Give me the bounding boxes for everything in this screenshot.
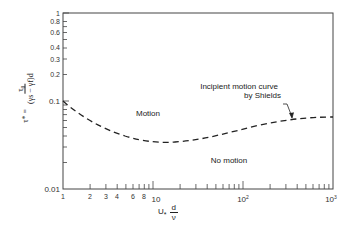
- plot-frame: [63, 13, 333, 189]
- x-tick-8: 8: [142, 193, 146, 200]
- x-tick-6: 6: [131, 193, 135, 200]
- y-axis-label-denominator: (γs − γf)d: [26, 71, 35, 106]
- x-tick-1: 1: [61, 193, 65, 200]
- x-axis-label-main: U*: [158, 207, 167, 218]
- curve-label-line2: by Shields: [244, 91, 281, 100]
- x-axis-label-fraction: d ν: [170, 203, 178, 222]
- y-axis-ticks: [63, 13, 69, 163]
- y-tick-0.6: 0.6: [50, 29, 60, 36]
- x-tick-3: 3: [104, 193, 108, 200]
- x-tick-2: 2: [88, 193, 92, 200]
- y-axis-label: τ* = τ₀ (γs − γf)d: [10, 62, 40, 132]
- x-axis-label-numerator: d: [170, 203, 178, 213]
- y-tick-0.01: 0.01: [44, 185, 60, 194]
- x-tick-100: 102: [237, 194, 249, 204]
- y-tick-0.3: 0.3: [50, 56, 60, 63]
- x-axis-label: U* d ν: [158, 203, 178, 222]
- curve-callout-arrow: [283, 104, 294, 118]
- x-tick-4: 4: [115, 193, 119, 200]
- y-axis-label-numerator: τ₀: [16, 84, 26, 94]
- y-tick-0.4: 0.4: [50, 44, 60, 51]
- y-tick-0.2: 0.2: [50, 71, 60, 78]
- y-axis-label-prefix: τ* =: [21, 109, 30, 123]
- x-axis-ticks: [90, 181, 329, 189]
- y-tick-0.1: 0.1: [49, 97, 61, 106]
- shields-curve: [63, 101, 333, 142]
- motion-label: Motion: [136, 109, 160, 118]
- x-tick-1000: 103: [325, 194, 337, 204]
- y-tick-labels: 1 0.8 0.6 0.4 0.3 0.2 0.1 0.01: [44, 10, 60, 194]
- no-motion-label: No motion: [211, 156, 247, 165]
- x-tick-labels: 1 2 3 4 6 8 10 102 103: [61, 193, 337, 204]
- y-tick-0.8: 0.8: [50, 18, 60, 25]
- curve-label-line1: Incipient motion curve: [200, 82, 278, 91]
- y-axis-label-fraction: τ₀ (γs − γf)d: [16, 71, 35, 106]
- x-axis-label-denominator: ν: [170, 213, 178, 222]
- y-tick-1: 1: [56, 10, 60, 17]
